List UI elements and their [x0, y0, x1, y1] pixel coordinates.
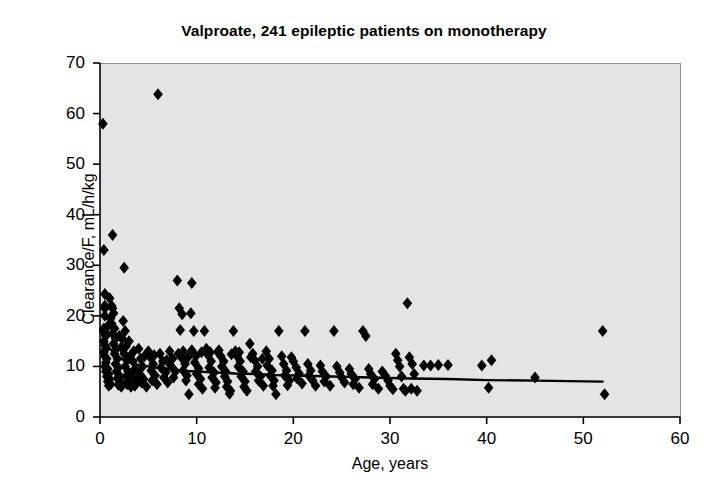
- scatter-plot-figure: Valproate, 241 epileptic patients on mon…: [0, 0, 728, 496]
- x-tick-label-40: 40: [467, 430, 507, 447]
- y-axis-title: Clearance/F, mL/h/kg: [80, 99, 98, 399]
- x-tick-label-50: 50: [563, 430, 603, 447]
- x-tick-label-60: 60: [660, 430, 700, 447]
- x-tick-label-0: 0: [80, 430, 120, 447]
- y-tick-label-10: 10: [45, 357, 85, 374]
- x-tick-label-10: 10: [177, 430, 217, 447]
- y-tick-label-20: 20: [45, 307, 85, 324]
- x-tick-label-20: 20: [273, 430, 313, 447]
- y-tick-label-30: 30: [45, 256, 85, 273]
- chart-title: Valproate, 241 epileptic patients on mon…: [0, 22, 728, 40]
- x-axis-title: Age, years: [100, 455, 680, 473]
- y-tick-label-50: 50: [45, 155, 85, 172]
- x-tick-label-30: 30: [370, 430, 410, 447]
- y-tick-label-70: 70: [45, 54, 85, 71]
- y-tick-label-60: 60: [45, 105, 85, 122]
- y-tick-label-0: 0: [45, 408, 85, 425]
- plot-area: [100, 63, 681, 418]
- y-tick-label-40: 40: [45, 206, 85, 223]
